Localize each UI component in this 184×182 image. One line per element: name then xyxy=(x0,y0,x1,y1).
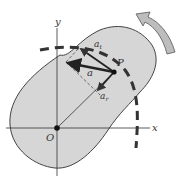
point-P xyxy=(111,69,116,74)
point-label: P xyxy=(116,57,124,68)
origin-label: O xyxy=(46,132,54,143)
accel-label: a xyxy=(87,67,93,78)
x-axis-label: x xyxy=(152,122,158,133)
origin-O xyxy=(54,125,60,131)
rigid-body xyxy=(10,26,156,168)
y-axis-label: y xyxy=(54,16,61,27)
diagram-canvas: y x O P a at ar xyxy=(0,0,184,182)
